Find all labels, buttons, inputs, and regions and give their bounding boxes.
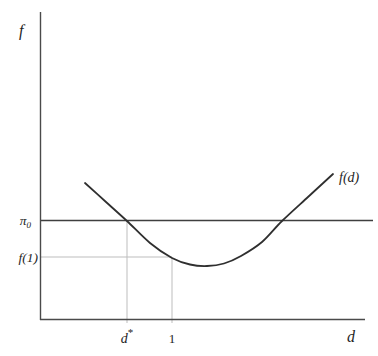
f1-label: f(1) — [19, 250, 39, 265]
pi0-label-sub: 0 — [27, 220, 32, 230]
curve-label: f(d) — [339, 170, 360, 186]
one-tick-label: 1 — [169, 331, 176, 346]
pi0-label: π0 — [20, 213, 32, 230]
dstar-label-sup: * — [128, 326, 134, 338]
figure-container: f π0 f(1) d* 1 d f(d) — [0, 0, 378, 356]
x-axis-label: d — [347, 328, 356, 345]
dstar-label: d* — [121, 326, 134, 346]
y-axis-label: f — [19, 22, 26, 40]
plot-svg: f π0 f(1) d* 1 d f(d) — [0, 0, 378, 356]
